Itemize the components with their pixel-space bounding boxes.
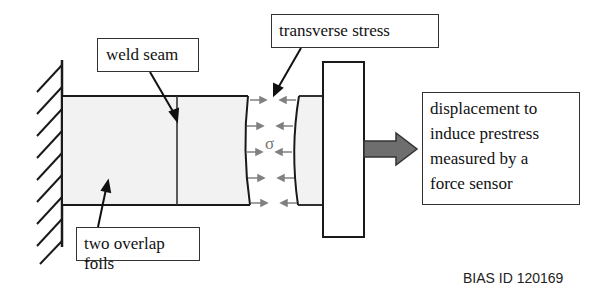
two-overlap-foils-label: two overlap foils xyxy=(76,227,200,261)
displacement-label-line-2: induce prestress xyxy=(430,121,579,146)
displacement-label-line-3: measured by a xyxy=(430,146,579,171)
sigma-symbol: σ xyxy=(265,134,274,154)
foil-specimen-left xyxy=(63,96,250,205)
clamp-block xyxy=(323,62,364,237)
foil-specimen-right xyxy=(294,96,323,205)
bias-id-caption: BIAS ID 120169 xyxy=(463,270,563,286)
displacement-label: displacement to induce prestress measure… xyxy=(422,92,580,205)
displacement-label-line-4: force sensor xyxy=(430,171,579,196)
fixed-wall-icon xyxy=(37,60,62,264)
displacement-label-line-1: displacement to xyxy=(430,96,579,121)
weld-seam-label: weld seam xyxy=(97,38,199,72)
transverse-stress-label: transverse stress xyxy=(271,14,439,48)
force-arrow-icon xyxy=(364,133,417,165)
